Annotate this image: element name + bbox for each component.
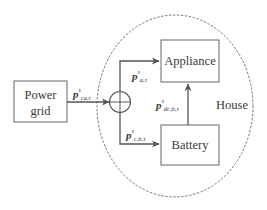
edge-label-grid-to-junction: psca,τ [73, 87, 91, 101]
battery-label: Battery [161, 138, 219, 154]
junction-sum-icon [110, 92, 131, 113]
sub: c,b,τ [134, 135, 146, 142]
power-grid-label-line1: Power [14, 88, 67, 104]
sup: s [162, 98, 164, 104]
edge-label-junction-to-appliance: psa,τ [132, 69, 147, 83]
appliance-label: Appliance [161, 54, 219, 70]
sup: s [138, 69, 140, 75]
sub: ca,τ [81, 94, 91, 101]
edge-label-battery-to-appliance: psdc,b,τ [156, 98, 179, 112]
power-grid-label-line2: grid [14, 104, 67, 120]
sup: s [79, 87, 81, 93]
power-grid-label: Power grid [14, 88, 67, 119]
sub: a,τ [140, 76, 147, 83]
sup: s [132, 128, 134, 134]
edge-label-junction-to-battery: psc,b,τ [126, 128, 146, 142]
house-label: House [216, 99, 248, 112]
sub: dc,b,τ [164, 105, 179, 112]
